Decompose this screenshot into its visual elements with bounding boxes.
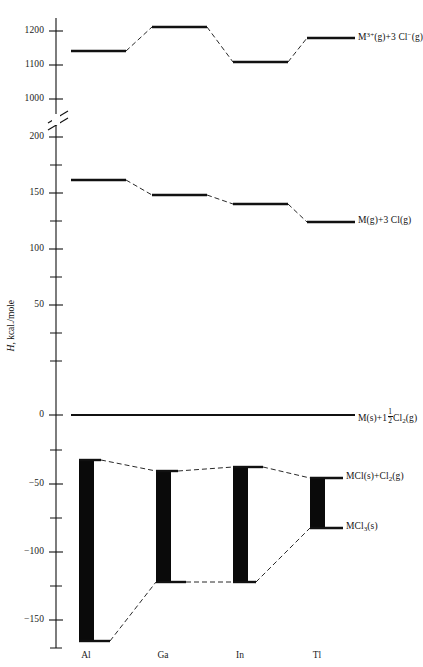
series-ions (71, 27, 355, 62)
bar-in (233, 467, 248, 582)
series-monochloride (79, 460, 343, 478)
one-half-fraction: 12 (388, 408, 393, 424)
series-label-ions: M3+(g)+3 Cl−(g) (358, 31, 423, 42)
bar-ga (156, 471, 171, 582)
y-tick-100: 100 (0, 243, 44, 253)
y-tick-150: 150 (0, 187, 44, 197)
y-tick-1000: 1000 (0, 93, 44, 103)
series-label-elements: M(s)+112Cl2(g) (358, 408, 417, 425)
axis-break-gap (52, 114, 60, 125)
y-tick-1200: 1200 (0, 25, 44, 35)
series-label-monochloride: MCl(s)+Cl2(g) (346, 471, 404, 483)
y-tick-1100: 1100 (0, 59, 44, 69)
bar-tl (310, 478, 325, 528)
y-axis-title-symbol: H (6, 345, 16, 352)
y-tick-200: 200 (0, 131, 44, 141)
series-atoms (71, 180, 355, 222)
y-tick-0: 0 (0, 409, 44, 419)
series-label-trichloride: MCl3(s) (346, 521, 378, 533)
y-tick-neg150: −150 (0, 614, 44, 624)
x-cat-in: In (220, 650, 260, 660)
series-trichloride (79, 528, 343, 641)
y-tick-neg100: −100 (0, 546, 44, 556)
y-axis-title: H, kcal./mole (6, 300, 16, 351)
y-tick-neg50: −50 (0, 478, 44, 488)
series-label-atoms: M(g)+3 Cl(g) (358, 215, 411, 225)
bar-al (79, 460, 94, 641)
y-axis-title-units: , kcal./mole (6, 300, 16, 345)
x-cat-ga: Ga (143, 650, 183, 660)
x-cat-al: Al (66, 650, 106, 660)
x-cat-tl: Tl (297, 650, 337, 660)
